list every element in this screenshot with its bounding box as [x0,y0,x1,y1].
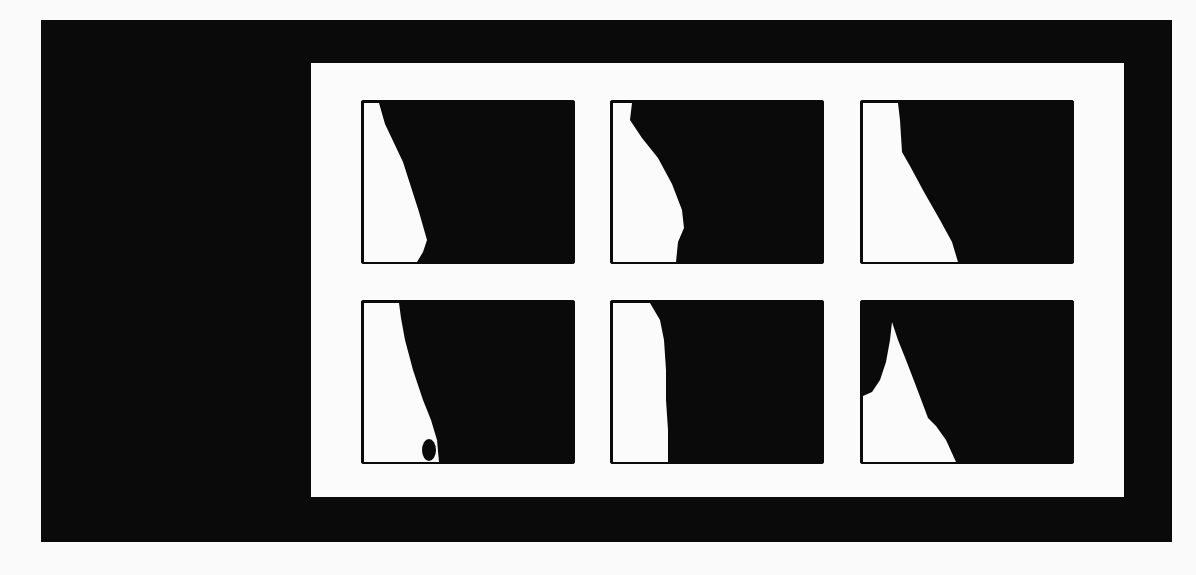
silhouette-panel-r1c2 [610,100,824,264]
silhouette-image [610,300,824,464]
silhouette-image [361,300,575,464]
silhouette-panel-r1c3 [860,100,1074,264]
silhouette-panel-r2c2 [610,300,824,464]
silhouette-image [610,100,824,264]
silhouette-image [361,100,575,264]
silhouette-image [860,100,1074,264]
silhouette-panel-r1c1 [361,100,575,264]
silhouette-panel-r2c1 [361,300,575,464]
silhouette-image [860,300,1074,464]
dark-blob-figure [422,439,436,461]
silhouette-panel-r2c3 [860,300,1074,464]
